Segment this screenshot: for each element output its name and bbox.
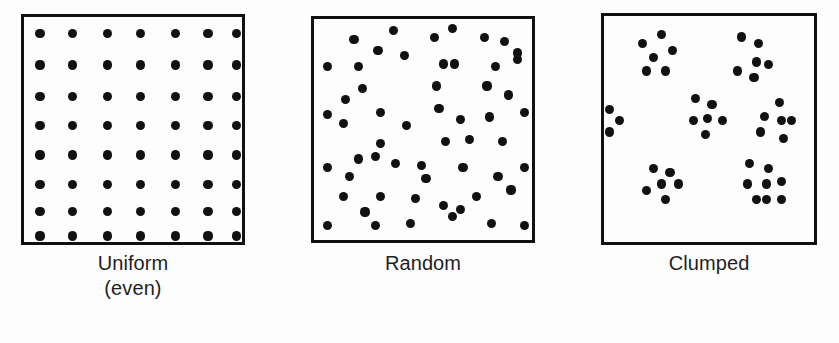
panel-random: Random <box>311 16 535 243</box>
data-point <box>68 207 77 216</box>
data-point <box>371 221 380 230</box>
data-point <box>136 150 145 159</box>
caption-line: Clumped <box>601 251 817 276</box>
data-point <box>749 73 758 82</box>
data-point <box>203 92 212 101</box>
data-point <box>136 207 145 216</box>
data-point <box>232 207 241 216</box>
panel-clumped: Clumped <box>601 13 817 245</box>
plot-box-clumped <box>601 13 817 245</box>
data-point <box>136 60 145 69</box>
plot-box-uniform <box>21 14 245 245</box>
data-point <box>674 179 683 188</box>
data-point <box>373 46 382 55</box>
data-point <box>68 29 77 38</box>
data-point <box>642 66 651 75</box>
data-point <box>417 161 426 170</box>
data-point <box>35 150 44 159</box>
caption-line: Random <box>311 251 535 276</box>
data-point <box>411 194 420 203</box>
data-point <box>520 221 529 230</box>
data-point <box>103 60 112 69</box>
data-point <box>35 92 44 101</box>
data-point <box>638 39 647 48</box>
data-point <box>745 159 754 168</box>
data-point <box>661 66 670 75</box>
data-point <box>743 179 752 188</box>
data-point <box>665 168 674 177</box>
data-point <box>171 207 180 216</box>
data-point <box>605 105 614 114</box>
data-point <box>482 81 491 90</box>
data-point <box>68 60 77 69</box>
data-point <box>339 119 348 128</box>
data-point <box>642 186 651 195</box>
data-point <box>323 163 332 172</box>
data-point <box>421 174 430 183</box>
data-point <box>718 116 727 125</box>
data-point <box>760 112 769 121</box>
data-point <box>171 60 180 69</box>
data-point <box>506 185 515 194</box>
data-point <box>775 98 784 107</box>
data-point <box>171 92 180 101</box>
data-point <box>232 150 241 159</box>
data-point <box>171 150 180 159</box>
caption-line: Uniform <box>21 251 245 276</box>
data-point <box>360 207 369 216</box>
caption-clumped: Clumped <box>601 251 817 276</box>
data-point <box>203 207 212 216</box>
data-point <box>615 116 624 125</box>
data-point <box>406 219 415 228</box>
data-point <box>472 192 481 201</box>
data-point <box>762 179 771 188</box>
data-point <box>430 33 439 42</box>
data-point <box>323 110 332 119</box>
data-point <box>485 112 494 121</box>
data-point <box>35 29 44 38</box>
data-point <box>491 62 500 71</box>
data-point <box>657 179 666 188</box>
data-point <box>371 152 380 161</box>
data-point <box>498 137 507 146</box>
data-point <box>450 59 459 68</box>
data-point <box>203 60 212 69</box>
data-point <box>68 92 77 101</box>
data-point <box>171 180 180 189</box>
data-point <box>762 195 771 204</box>
data-point <box>752 195 761 204</box>
data-point <box>35 180 44 189</box>
data-point <box>203 180 212 189</box>
data-point <box>391 159 400 168</box>
data-point <box>520 163 529 172</box>
data-point <box>103 121 112 130</box>
panel-uniform: Uniform(even) <box>21 14 245 245</box>
data-point <box>103 207 112 216</box>
data-point <box>136 180 145 189</box>
data-point <box>68 150 77 159</box>
data-point <box>35 207 44 216</box>
data-point <box>737 32 746 41</box>
data-point <box>649 164 658 173</box>
data-point <box>756 127 765 136</box>
data-point <box>752 57 761 66</box>
plot-box-random <box>311 16 535 243</box>
data-point <box>103 92 112 101</box>
data-point <box>171 231 180 240</box>
data-point <box>376 192 385 201</box>
data-point <box>232 180 241 189</box>
data-point <box>171 121 180 130</box>
data-point <box>345 172 354 181</box>
data-point <box>402 121 411 130</box>
data-point <box>439 201 448 210</box>
data-point <box>358 84 367 93</box>
data-point <box>456 205 465 214</box>
caption-uniform: Uniform(even) <box>21 251 245 301</box>
data-point <box>448 24 457 33</box>
data-point <box>456 115 465 124</box>
data-point <box>376 108 385 117</box>
data-point <box>232 60 241 69</box>
data-point <box>448 212 457 221</box>
data-point <box>354 154 363 163</box>
data-point <box>777 116 786 125</box>
